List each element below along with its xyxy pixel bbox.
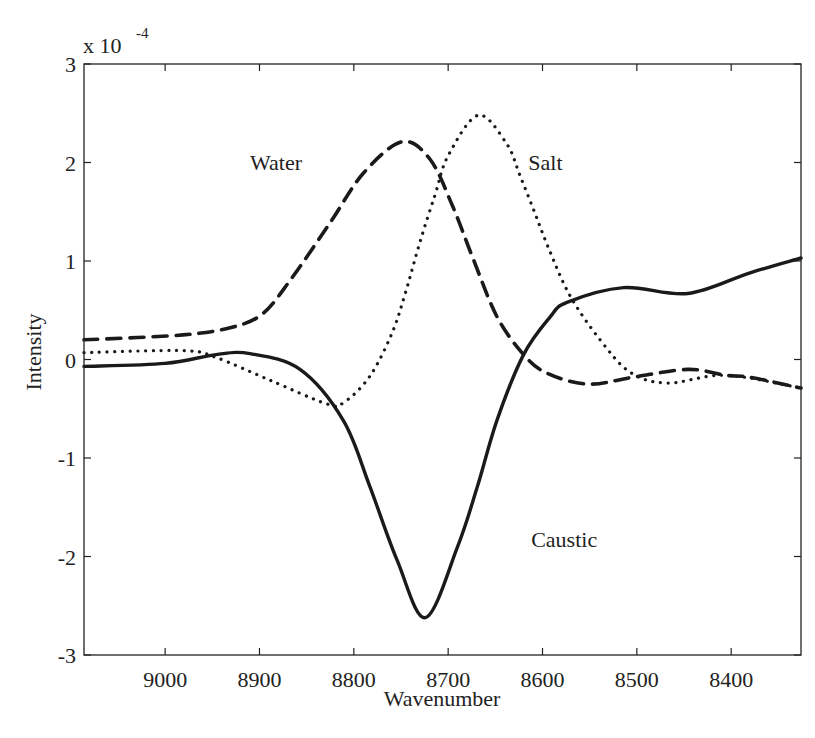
series-labels: CausticWaterSalt xyxy=(250,150,597,551)
series-line-salt xyxy=(84,115,801,406)
y-tick-label: 2 xyxy=(65,151,76,176)
y-tick-label: -2 xyxy=(58,545,76,570)
y-tick-label: -1 xyxy=(58,446,76,471)
y-multiplier-label: x 10 xyxy=(83,33,122,58)
series-label-water: Water xyxy=(250,150,303,175)
series-label-salt: Salt xyxy=(528,150,562,175)
series-label-caustic: Caustic xyxy=(531,527,597,552)
x-tick-label: 8600 xyxy=(521,667,565,692)
series-line-caustic xyxy=(84,258,801,618)
y-multiplier-exponent: -4 xyxy=(136,25,149,41)
x-tick-label: 8800 xyxy=(332,667,376,692)
x-tick-label: 9000 xyxy=(143,667,187,692)
x-tick-label: 8400 xyxy=(709,667,753,692)
x-tick-label: 8500 xyxy=(615,667,659,692)
y-tick-label: 1 xyxy=(65,249,76,274)
y-axis-title: Intensity xyxy=(21,314,46,391)
plot-lines xyxy=(84,115,801,618)
y-tick-label: 0 xyxy=(65,348,76,373)
x-axis: 9000890088008700860085008400 xyxy=(143,64,753,692)
spectra-chart: 9000890088008700860085008400 -3-2-10123 … xyxy=(0,0,815,738)
y-axis: -3-2-10123 xyxy=(58,52,801,668)
x-tick-label: 8900 xyxy=(237,667,281,692)
x-axis-title: Wavenumber xyxy=(384,686,501,711)
y-tick-label: -3 xyxy=(58,643,76,668)
y-tick-label: 3 xyxy=(65,52,76,77)
